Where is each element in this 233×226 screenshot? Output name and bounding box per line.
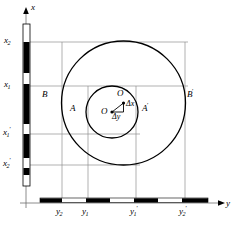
x-scale-segment-black-1 [24,42,30,73]
x-axis-arrowhead [23,7,29,14]
y-axis-arrowhead [218,200,225,205]
x-axis-label: x [31,3,35,12]
tick-label-y1p-sub: 1 [134,211,137,217]
tick-label-y2p-prime: ′ [186,204,187,211]
x-scale-segment-black-2 [24,84,30,124]
point-O-prime-dot [122,101,125,104]
x-scale-segment-black-4 [24,168,30,175]
tick-label-x2-sub: 2 [8,40,11,46]
delta-y-label: Δy [112,113,120,121]
tick-label-x1: x1 [4,80,11,89]
tick-label-y2p-sub: 2 [183,211,186,217]
y-scale-segment-black-3 [134,198,158,202]
x-scale-bar-segments [24,42,30,175]
point-label-B-base: B [42,89,48,99]
y-axis-label: y [226,199,230,208]
axis-arrowheads [23,7,225,206]
tick-label-x1p-prime: ′ [10,125,11,132]
tick-label-y2-sub: 2 [60,211,63,217]
y-scale-bar [40,198,208,203]
tick-label-y2: y2 [56,207,63,216]
point-label-A-base: A [70,103,76,113]
delta-x-label: Δx [126,100,134,108]
point-label-B: B [42,90,48,99]
x-scale-segment-black-3 [24,134,30,158]
displacement-triangle [112,103,124,112]
point-label-A: A [70,104,76,113]
coordinate-axes [20,10,222,208]
tick-label-x2p-prime: ′ [10,156,11,163]
tick-label-y1-sub: 1 [86,211,89,217]
point-label-A-prime: A′ [142,104,149,113]
projection-guide-lines [30,42,188,200]
hypotenuse-O-to-Oprime [112,103,124,112]
tick-label-x1-prime: x1′ [3,128,11,137]
tick-label-x2: x2 [4,36,11,45]
x-scale-bar [23,24,30,186]
tick-label-y1-prime: y1′ [130,207,138,216]
point-label-O-base: O [101,106,108,116]
tick-label-y2-prime: y2′ [179,207,187,216]
point-label-O-prime: O′ [117,89,125,98]
point-label-O: O [101,107,108,116]
y-scale-segment-black-2 [86,198,110,202]
y-scale-segment-black-1 [40,198,62,202]
figure-canvas: x y x2 x1 x1′ x2′ y2 y1 y1′ y2′ O O′ Δx … [0,0,233,226]
tick-label-x1-sub: 1 [8,84,11,90]
tick-label-x2p-sub: 2 [7,163,10,169]
point-label-B-prime: B′ [187,90,194,99]
tick-label-x2-prime: x2′ [3,159,11,168]
y-scale-segment-black-4 [182,198,208,202]
tick-label-x1p-sub: 1 [7,132,10,138]
tick-label-y1p-prime: ′ [137,204,138,211]
tick-label-y1: y1 [82,207,89,216]
